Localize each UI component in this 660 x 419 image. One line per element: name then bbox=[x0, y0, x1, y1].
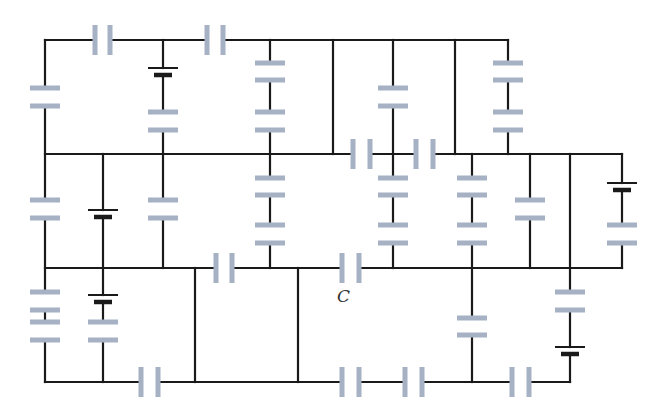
capacitor-icon bbox=[515, 198, 545, 221]
capacitor-icon bbox=[378, 223, 408, 246]
wires bbox=[45, 40, 622, 382]
capacitor-icon bbox=[403, 367, 425, 397]
capacitor-icon bbox=[493, 61, 523, 83]
capacitor-icon bbox=[378, 176, 408, 198]
capacitor-icon bbox=[351, 139, 373, 169]
capacitor-icon bbox=[457, 316, 487, 338]
capacitor-icon bbox=[139, 367, 161, 397]
capacitor-icon bbox=[148, 198, 178, 221]
capacitor-icon bbox=[607, 223, 637, 246]
capacitor-icon bbox=[88, 320, 118, 343]
capacitor-icon bbox=[214, 253, 235, 283]
capacitor-icon bbox=[255, 61, 285, 83]
capacitor-icon bbox=[493, 110, 523, 133]
labels: C bbox=[337, 286, 350, 306]
capacitor-icon bbox=[30, 290, 60, 313]
capacitor-label-C: C bbox=[337, 286, 350, 306]
capacitor-icon bbox=[30, 198, 60, 221]
capacitor-icon bbox=[255, 110, 285, 133]
capacitor-icon bbox=[457, 223, 487, 246]
capacitor-icon bbox=[510, 367, 532, 397]
capacitors-in-horizontal-branches bbox=[93, 25, 532, 397]
capacitor-icon bbox=[378, 86, 408, 109]
capacitor-icon bbox=[457, 176, 487, 198]
capacitor-icon bbox=[30, 320, 60, 343]
circuit-diagram: C bbox=[0, 0, 660, 419]
capacitor-icon bbox=[555, 290, 585, 313]
capacitor-icon bbox=[205, 25, 226, 55]
capacitor-icon bbox=[30, 86, 60, 109]
capacitor-icon bbox=[340, 253, 362, 283]
capacitor-icon bbox=[148, 110, 178, 133]
capacitor-icon bbox=[255, 223, 285, 246]
capacitor-icon bbox=[93, 25, 113, 55]
capacitor-icon bbox=[340, 367, 362, 397]
capacitor-icon bbox=[414, 139, 436, 169]
capacitor-icon bbox=[255, 176, 285, 198]
